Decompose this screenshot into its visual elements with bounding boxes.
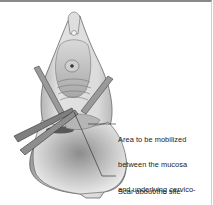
annotation-line: between the mucosa <box>118 161 196 169</box>
annotation-line: Scar about the site <box>118 188 181 196</box>
annotation-line: Area to be mobilized <box>118 136 196 144</box>
tissue-body-icon <box>30 12 127 198</box>
annotation-scar: Scar about the site of fistula <box>118 172 181 205</box>
